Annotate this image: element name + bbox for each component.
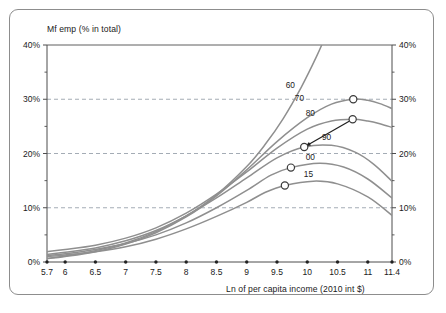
svg-text:30%: 30%	[399, 94, 416, 104]
curve-label-90: 90	[322, 132, 332, 142]
peak-marker-15	[281, 182, 288, 189]
peak-marker-90	[301, 143, 308, 150]
axis-ticks: 0%0%10%10%20%20%30%30%40%40%5.766.577.58…	[23, 40, 416, 277]
svg-text:30%: 30%	[23, 94, 40, 104]
svg-text:20%: 20%	[23, 149, 40, 159]
curve-label-60: 60	[286, 80, 296, 90]
svg-text:7.5: 7.5	[150, 267, 162, 277]
curve-label-15: 15	[304, 169, 314, 179]
svg-text:40%: 40%	[399, 40, 416, 50]
svg-text:11: 11	[363, 267, 372, 277]
svg-text:6: 6	[63, 267, 68, 277]
svg-text:5.7: 5.7	[41, 267, 53, 277]
chart-canvas: 0%0%10%10%20%20%30%30%40%40%5.766.577.58…	[0, 0, 446, 313]
svg-text:6.5: 6.5	[90, 267, 102, 277]
svg-text:9: 9	[244, 267, 249, 277]
svg-text:8: 8	[184, 267, 189, 277]
svg-text:0%: 0%	[28, 257, 41, 267]
svg-text:40%: 40%	[23, 40, 40, 50]
svg-text:10%: 10%	[399, 203, 416, 213]
svg-text:8.5: 8.5	[211, 267, 223, 277]
svg-text:9.5: 9.5	[271, 267, 283, 277]
peak-marker-80	[349, 116, 356, 123]
data-curves	[47, 36, 392, 258]
peak-marker-70	[350, 96, 357, 103]
svg-text:7: 7	[123, 267, 128, 277]
svg-text:20%: 20%	[399, 149, 416, 159]
peak-marker-00	[287, 164, 294, 171]
svg-text:11.4: 11.4	[384, 267, 400, 277]
x-axis-title: Ln of per capita income (2010 int $)	[226, 284, 365, 294]
svg-text:10%: 10%	[23, 203, 40, 213]
svg-text:10.5: 10.5	[329, 267, 346, 277]
svg-text:0%: 0%	[399, 257, 412, 267]
curve-label-00: 00	[306, 152, 316, 162]
curve-label-80: 80	[306, 108, 316, 118]
svg-text:10: 10	[303, 267, 313, 277]
y-axis-title: Mf emp (% in total)	[47, 24, 121, 34]
curve-label-70: 70	[295, 93, 305, 103]
